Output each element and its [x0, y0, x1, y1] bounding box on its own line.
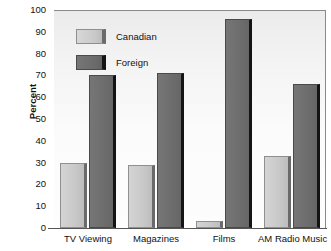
bar-canadian-tv-viewing [60, 163, 87, 228]
legend-swatch-foreign [76, 55, 106, 70]
y-axis-tick-label: 80 [20, 49, 46, 59]
legend-label-foreign: Foreign [116, 57, 148, 68]
legend-label-canadian: Canadian [116, 31, 157, 42]
bar-foreign-magazines [157, 73, 184, 228]
y-axis-tick-label: 20 [20, 179, 46, 189]
y-axis-tick-label: 30 [20, 158, 46, 168]
x-axis-tick-label: AM Radio Music [258, 232, 326, 246]
bar-canadian-magazines [128, 165, 155, 228]
bar-group [258, 10, 326, 228]
y-axis-tick-label: 10 [20, 201, 46, 211]
bar-foreign-tv-viewing [89, 75, 116, 228]
y-axis-tick-label: 40 [20, 136, 46, 146]
y-axis-tick-label: 0 [20, 223, 46, 233]
x-axis-line [48, 228, 327, 229]
legend-item-foreign: Foreign [76, 52, 157, 72]
bar-group [190, 10, 258, 228]
bar-chart-figure: 0102030405060708090100 Percent CanadianF… [0, 0, 331, 251]
y-axis-title: Percent [27, 72, 38, 132]
x-axis-tick-label: TV Viewing [54, 232, 122, 246]
y-axis-tick-label: 100 [20, 5, 46, 15]
x-axis-tick-labels: TV ViewingMagazinesFilmsAM Radio Music [54, 232, 326, 250]
x-axis-tick-label: Magazines [122, 232, 190, 246]
y-axis-tick-label: 90 [20, 27, 46, 37]
x-axis-tick-label: Films [190, 232, 258, 246]
legend-item-canadian: Canadian [76, 26, 157, 46]
bar-foreign-am-radio-music [293, 84, 320, 228]
bar-foreign-films [225, 19, 252, 228]
chart-legend: CanadianForeign [76, 26, 157, 78]
legend-swatch-canadian [76, 29, 106, 44]
bar-canadian-am-radio-music [264, 156, 291, 228]
bar-canadian-films [196, 221, 223, 228]
